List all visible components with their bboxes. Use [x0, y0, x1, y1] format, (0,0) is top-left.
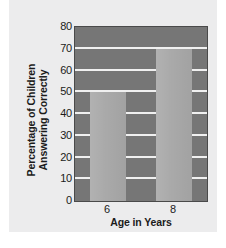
bar-age-8: [156, 49, 193, 201]
y-tick-label: 50: [46, 85, 72, 97]
y-axis-tick-labels: 01020304050607080: [46, 26, 72, 202]
y-tick-label: 20: [46, 151, 72, 163]
x-tick-label: 6: [104, 203, 110, 215]
x-axis-title: Age in Years: [74, 216, 208, 228]
y-tick-label: 30: [46, 129, 72, 141]
y-tick-label: 60: [46, 64, 72, 76]
plot-area: [74, 26, 208, 202]
bar-chart-figure: Percentage of Children Answering Correct…: [0, 0, 226, 248]
bar-shading: [90, 92, 127, 201]
bar-shading: [156, 49, 193, 201]
y-tick-label: 40: [46, 107, 72, 119]
x-tick-label: 8: [170, 203, 176, 215]
y-tick-label: 0: [46, 194, 72, 206]
y-tick-label: 10: [46, 172, 72, 184]
y-tick-label: 80: [46, 20, 72, 32]
bar-age-6: [90, 92, 127, 201]
y-tick-label: 70: [46, 42, 72, 54]
